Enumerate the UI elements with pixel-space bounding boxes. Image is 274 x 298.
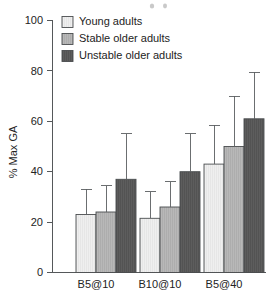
legend-swatch-stable-older-adults xyxy=(62,34,73,45)
legend-item-young-adults[interactable]: Young adults xyxy=(62,15,143,27)
bar-unstable-older-adults-b5-10[interactable] xyxy=(116,179,136,272)
y-tick-label-80: 80 xyxy=(31,65,43,77)
y-axis-title: % Max GA xyxy=(7,125,19,178)
x-axis: B5@10 B10@10 B5@40 xyxy=(53,273,267,291)
y-tick-label-0: 0 xyxy=(37,266,43,278)
x-tick-label-group-2: B10@10 xyxy=(139,278,182,290)
errorbar-young-adults-b5-40 xyxy=(209,125,220,164)
x-tick-label-group-1: B5@10 xyxy=(78,278,115,290)
legend: Young adults Stable older adults Unstabl… xyxy=(62,15,183,61)
y-tick-label-60: 60 xyxy=(31,115,43,127)
bar-group-b5-10 xyxy=(76,134,136,273)
errorbar-young-adults-b5-10 xyxy=(81,189,92,214)
errorbar-unstable-older-adults-b5-10 xyxy=(121,134,132,179)
errorbar-unstable-older-adults-b5-40 xyxy=(249,72,260,119)
y-tick-label-100: 100 xyxy=(25,14,43,26)
bar-group-b10-10 xyxy=(140,134,200,273)
bar-stable-older-adults-b5-10[interactable] xyxy=(96,212,116,273)
y-axis-ticks xyxy=(47,21,53,273)
bar-stable-older-adults-b10-10[interactable] xyxy=(160,207,180,273)
y-axis: 0 20 40 60 80 100 % Max GA xyxy=(7,14,53,278)
legend-swatch-unstable-older-adults xyxy=(62,51,73,62)
y-tick-label-20: 20 xyxy=(31,216,43,228)
bar-unstable-older-adults-b5-40[interactable] xyxy=(244,119,264,273)
errorbar-unstable-older-adults-b10-10 xyxy=(185,134,196,172)
bar-stable-older-adults-b5-40[interactable] xyxy=(224,147,244,273)
figure-container: 0 20 40 60 80 100 % Max GA B5@10 B10@10 … xyxy=(0,0,274,298)
legend-item-stable-older-adults[interactable]: Stable older adults xyxy=(62,32,171,44)
x-tick-label-group-3: B5@40 xyxy=(206,278,243,290)
bar-young-adults-b5-10[interactable] xyxy=(76,215,96,273)
bar-young-adults-b5-40[interactable] xyxy=(204,164,224,272)
errorbar-young-adults-b10-10 xyxy=(145,192,156,218)
errorbar-stable-older-adults-b5-40 xyxy=(229,96,240,146)
legend-label-unstable-older-adults: Unstable older adults xyxy=(79,49,183,61)
y-tick-label-40: 40 xyxy=(31,165,43,177)
legend-label-young-adults: Young adults xyxy=(79,15,143,27)
grouped-bar-chart: 0 20 40 60 80 100 % Max GA B5@10 B10@10 … xyxy=(0,0,274,298)
errorbar-stable-older-adults-b10-10 xyxy=(165,182,176,207)
errorbar-stable-older-adults-b5-10 xyxy=(101,186,112,212)
scan-artifact xyxy=(150,3,167,8)
legend-label-stable-older-adults: Stable older adults xyxy=(79,32,171,44)
bar-young-adults-b10-10[interactable] xyxy=(140,218,160,272)
bar-unstable-older-adults-b10-10[interactable] xyxy=(180,172,200,273)
legend-swatch-young-adults xyxy=(62,17,73,28)
bar-group-b5-40 xyxy=(204,72,264,272)
legend-item-unstable-older-adults[interactable]: Unstable older adults xyxy=(62,49,183,61)
